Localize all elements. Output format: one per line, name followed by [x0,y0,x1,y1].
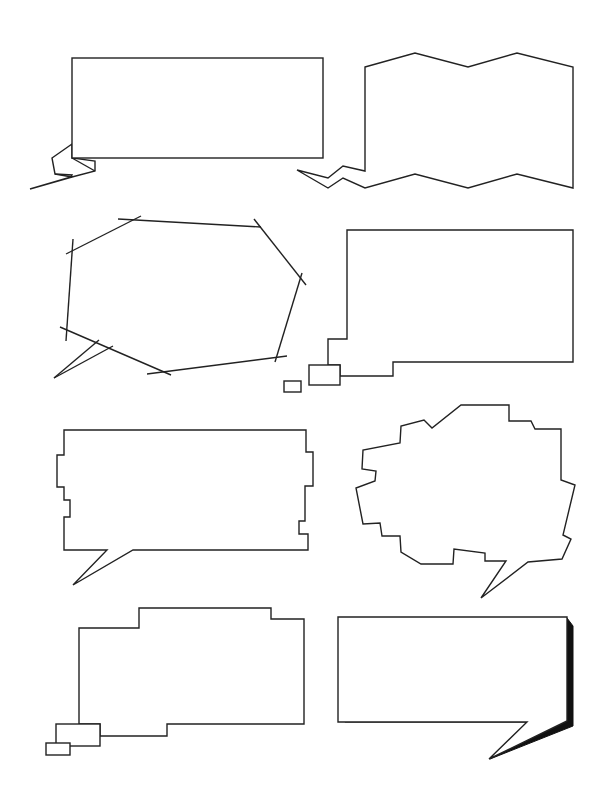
bubble-body [57,430,313,585]
bubble-stepped-thought-rect [284,230,573,392]
thought-dot-small [284,381,301,392]
bubble-stepped-thought-tall [46,608,304,755]
bubble-notched-rect [57,430,313,585]
thought-dot-large [309,365,340,385]
bubble-body [297,53,573,188]
bubble-body [356,405,575,598]
bubble-body [72,58,323,158]
bubble-shadowed-rect [338,617,573,759]
bubble-body [338,617,567,759]
thought-dot-small [46,743,70,755]
bubble-jagged-cloud [356,405,575,598]
speech-bubble-sheet [0,0,606,804]
bubble-body [328,230,573,376]
bubble-body [79,608,304,736]
bubble-folded-ribbon-rect [30,58,323,189]
bubble-zigzag-banner [297,53,573,188]
bubble-sketch-octagon [54,216,306,378]
